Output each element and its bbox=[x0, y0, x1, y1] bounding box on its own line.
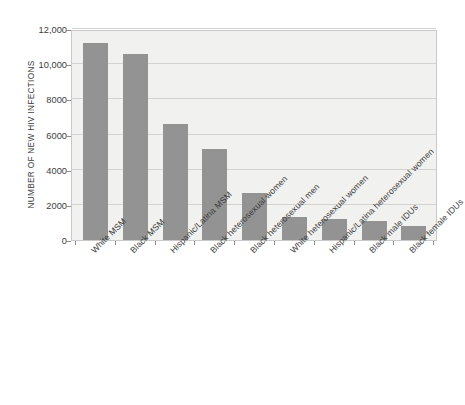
y-axis-tick-label: 2000 bbox=[5, 201, 71, 211]
gridline bbox=[72, 28, 436, 29]
y-axis-tick-label: 6000 bbox=[5, 131, 71, 141]
y-axis-tick-label: 12,000 bbox=[5, 25, 71, 35]
x-axis-tick-labels: White MSMBlack MSMHispanic/Latina MSMBla… bbox=[0, 241, 463, 405]
y-axis-tick-label: 4000 bbox=[5, 166, 71, 176]
y-axis-tick-label: 10,000 bbox=[5, 60, 71, 70]
y-axis-tick-label: 8000 bbox=[5, 95, 71, 105]
y-axis-tick-labels: 0200040006000800010,00012,000 bbox=[0, 30, 71, 241]
bar bbox=[163, 124, 188, 240]
bar bbox=[83, 43, 108, 240]
bar bbox=[123, 54, 148, 240]
